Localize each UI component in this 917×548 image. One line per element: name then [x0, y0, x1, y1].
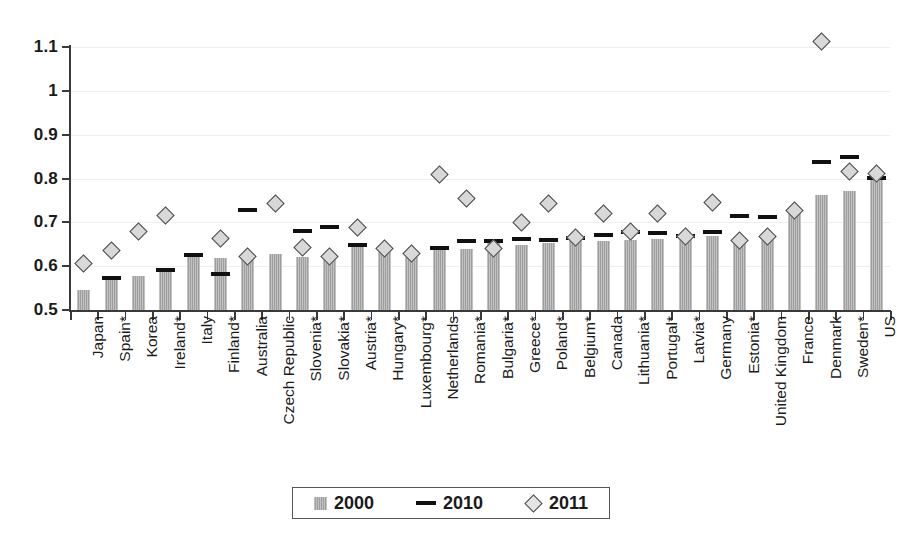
x-axis-labels: JapanSpain*KoreaIreland*ItalyFinland*Aus…	[70, 316, 890, 476]
diamond-2011	[211, 230, 229, 248]
y-tick: 1.1	[0, 38, 58, 56]
x-axis-label: Ireland*	[172, 316, 188, 369]
x-axis-label: Austria*	[363, 316, 379, 370]
legend-label-2011: 2011	[549, 494, 588, 512]
x-axis-label: Greece*	[527, 316, 543, 373]
diamond-2011	[840, 163, 858, 181]
legend-item-2000: 2000	[314, 494, 374, 512]
diamond-2011	[348, 218, 366, 236]
x-axis-label: Italy	[199, 316, 215, 344]
diamond-2011	[785, 201, 803, 219]
x-axis-label: Belgium*	[582, 316, 598, 378]
x-axis-label: Sweden*	[855, 316, 871, 378]
dash-swatch-icon	[416, 501, 436, 505]
bar-swatch-icon	[314, 497, 327, 510]
y-tick-label: 0.9	[34, 126, 58, 143]
chart-legend: 2000 2010 2011	[292, 487, 610, 519]
diamond-2011	[156, 207, 174, 225]
x-axis-label: Finland*	[226, 316, 242, 373]
legend-label-2000: 2000	[334, 494, 374, 512]
x-axis-label: Netherlands	[445, 316, 461, 400]
diamond-2011	[484, 239, 502, 257]
diamond-2011	[676, 227, 694, 245]
x-axis-label: Korea	[144, 316, 160, 357]
y-tick-label: 0.5	[34, 301, 58, 318]
x-axis-label: Latvia*	[691, 316, 707, 363]
diamond-2011	[266, 195, 284, 213]
diamond-2011	[129, 223, 147, 241]
diamond-2011	[648, 204, 666, 222]
y-tick-label: 0.6	[34, 257, 58, 274]
x-axis-label: Romania*	[472, 316, 488, 384]
diamond-swatch-icon	[524, 494, 542, 512]
y-tick: 0.5	[0, 301, 58, 319]
x-axis-label: Estonia*	[746, 316, 762, 374]
diamond-2011	[621, 222, 639, 240]
y-tick-label: 0.7	[34, 213, 58, 230]
diamond-2011	[867, 164, 885, 182]
diamond-2011	[758, 227, 776, 245]
x-axis-label: US	[882, 316, 898, 338]
x-axis-label: United Kingdom	[773, 316, 789, 426]
x-axis-label: Slovakia*	[336, 316, 352, 381]
x-axis-label: Germany	[718, 316, 734, 380]
diamond-2011	[320, 247, 338, 265]
x-axis-label: Hungary*	[390, 316, 406, 381]
y-tick: 1	[0, 82, 58, 100]
diamond-2011	[293, 239, 311, 257]
x-axis-label: Slovenia*	[308, 316, 324, 382]
x-axis-label: Luxembourg*	[418, 316, 434, 408]
diamond-2011	[812, 33, 830, 51]
x-axis-label: Portugal*	[664, 316, 680, 380]
x-axis-label: Canada	[609, 316, 625, 370]
x-axis-label: France	[800, 316, 816, 364]
y-tick: 0.9	[0, 126, 58, 144]
diamond-2011	[375, 239, 393, 257]
x-axis-label: Spain*	[117, 316, 133, 362]
y-tick-label: 1	[48, 82, 58, 99]
x-axis-label: Australia	[254, 316, 270, 376]
diamond-2011	[594, 204, 612, 222]
legend-label-2010: 2010	[443, 494, 483, 512]
diamond-2011	[430, 165, 448, 183]
y-tick: 0.7	[0, 213, 58, 231]
legend-item-2011: 2011	[525, 494, 588, 512]
x-axis-label: Czech Republic	[281, 316, 297, 425]
diamond-2011	[102, 242, 120, 260]
y-tick-label: 0.8	[34, 170, 58, 187]
y-tick-label: 1.1	[34, 38, 58, 55]
diamond-2011	[539, 195, 557, 213]
y-tick: 0.8	[0, 170, 58, 188]
diamond-2011	[74, 255, 92, 273]
x-axis-label: Japan	[90, 316, 106, 358]
x-axis-label: Lithuania*	[636, 316, 652, 385]
diamond-2011	[512, 213, 530, 231]
diamond-2011	[730, 232, 748, 250]
x-axis-label: Bulgaria*	[500, 316, 516, 379]
x-axis-label: Denmark	[828, 316, 844, 379]
diamond-2011	[238, 247, 256, 265]
legend-item-2010: 2010	[416, 494, 483, 512]
series-2011-diamonds	[70, 47, 890, 310]
x-axis-label: Poland*	[554, 316, 570, 370]
y-tick: 0.6	[0, 257, 58, 275]
diamond-2011	[703, 193, 721, 211]
diamond-2011	[457, 189, 475, 207]
diamond-2011	[566, 228, 584, 246]
diamond-2011	[402, 244, 420, 262]
bar-chart: 1.110.90.80.70.60.5 JapanSpain*KoreaIrel…	[0, 0, 917, 548]
